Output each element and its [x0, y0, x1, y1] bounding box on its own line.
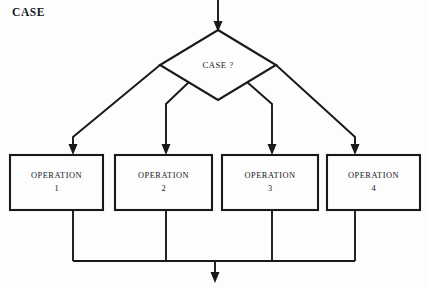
operation-box-3: OPERATION 3	[222, 155, 318, 210]
operation-2-number: 2	[161, 184, 165, 193]
operation-box-1: OPERATION 1	[10, 155, 103, 210]
operation-3-number: 3	[268, 184, 272, 193]
operation-box-4: OPERATION 4	[327, 155, 420, 210]
branch-connector-4	[276, 65, 360, 155]
operation-box-2: OPERATION 2	[115, 155, 212, 210]
decision-label: CASE ?	[203, 60, 234, 70]
entry-arrow	[214, 0, 223, 32]
exit-arrow	[211, 261, 220, 283]
flowchart-diagram: CASE CASE ?	[0, 0, 428, 288]
branch-connector-1	[69, 65, 161, 155]
flowchart-canvas: CASE ? OPERATION 1	[0, 0, 428, 288]
branch-connector-2	[162, 82, 190, 155]
operation-3-label: OPERATION	[244, 171, 295, 180]
operation-1-label: OPERATION	[31, 171, 82, 180]
decision-node-case: CASE ?	[160, 30, 276, 100]
operation-2-label: OPERATION	[138, 171, 189, 180]
merge-connectors	[73, 210, 355, 261]
branch-connector-3	[247, 82, 277, 155]
operation-4-label: OPERATION	[348, 171, 399, 180]
operation-1-number: 1	[54, 184, 58, 193]
